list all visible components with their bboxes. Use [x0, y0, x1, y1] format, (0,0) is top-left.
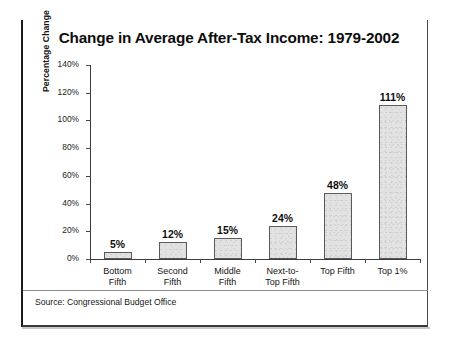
- x-tick: [420, 259, 421, 263]
- bar-1: 5%: [104, 252, 132, 259]
- bar-value-label: 111%: [380, 92, 405, 103]
- category-label-line: Bottom: [90, 266, 145, 277]
- y-tick-label: 60%: [62, 170, 79, 180]
- y-axis-title: Percentage Change: [41, 0, 51, 92]
- x-tick: [200, 259, 201, 263]
- y-tick-80pct: 80%: [86, 148, 90, 149]
- y-tick-40pct: 40%: [86, 204, 90, 205]
- y-tick-60pct: 60%: [86, 176, 90, 177]
- category-label-line: Second: [145, 266, 200, 277]
- bar-2: 12%: [159, 242, 187, 259]
- frame-shadow: [22, 327, 430, 329]
- y-tick-label: 100%: [58, 114, 79, 124]
- plot-area: 0%20%40%60%80%100%120%140% 5%12%15%24%48…: [90, 65, 420, 259]
- category-label-line: Next-to-: [255, 266, 310, 277]
- x-tick: [255, 259, 256, 263]
- bar-5: 48%: [324, 193, 352, 260]
- y-tick-20pct: 20%: [86, 231, 90, 232]
- category-label-1: BottomFifth: [90, 266, 145, 287]
- bar-4: 24%: [269, 226, 297, 259]
- category-label-2: SecondFifth: [145, 266, 200, 287]
- y-tick-120pct: 120%: [86, 93, 90, 94]
- bar-3: 15%: [214, 238, 242, 259]
- bar-6: 111%: [379, 105, 407, 259]
- chart-title: Change in Average After-Tax Income: 1979…: [40, 29, 418, 47]
- x-tick: [310, 259, 311, 263]
- category-label-6: Top 1%: [365, 266, 420, 277]
- category-label-line: Middle: [200, 266, 255, 277]
- bar-value-label: 5%: [110, 239, 125, 250]
- y-tick-label: 120%: [58, 87, 79, 97]
- source-separator: [23, 290, 428, 291]
- category-label-line: Top Fifth: [310, 266, 365, 277]
- category-label-4: Next-to-Top Fifth: [255, 266, 310, 287]
- y-tick-label: 0%: [67, 253, 79, 263]
- category-label-line: Fifth: [90, 277, 145, 288]
- y-tick-100pct: 100%: [86, 120, 90, 121]
- y-tick-label: 140%: [58, 59, 79, 69]
- category-label-5: Top Fifth: [310, 266, 365, 277]
- bar-value-label: 24%: [272, 213, 293, 224]
- x-tick: [365, 259, 366, 263]
- category-label-line: Fifth: [145, 277, 200, 288]
- slide-frame: Change in Average After-Tax Income: 1979…: [21, 20, 428, 327]
- y-tick-label: 40%: [62, 198, 79, 208]
- category-label-line: Fifth: [200, 277, 255, 288]
- bar-value-label: 15%: [217, 225, 238, 236]
- bar-value-label: 48%: [327, 180, 348, 191]
- x-tick: [90, 259, 91, 263]
- x-tick: [145, 259, 146, 263]
- y-tick-label: 80%: [62, 142, 79, 152]
- category-label-3: MiddleFifth: [200, 266, 255, 287]
- bar-value-label: 12%: [162, 229, 183, 240]
- y-axis-line: [90, 65, 91, 260]
- y-tick-140pct: 140%: [86, 65, 90, 66]
- source-note: Source: Congressional Budget Office: [35, 297, 176, 307]
- y-tick-label: 20%: [62, 225, 79, 235]
- category-label-line: Top Fifth: [255, 277, 310, 288]
- category-label-line: Top 1%: [365, 266, 420, 277]
